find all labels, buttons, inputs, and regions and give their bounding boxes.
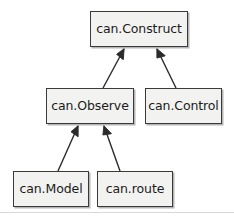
uml-class-diagram: can.Construct can.Observe can.Control ca… <box>0 0 234 220</box>
class-name-can-model: can.Model <box>19 183 82 196</box>
class-box-can-observe[interactable]: can.Observe <box>46 88 134 124</box>
edge-observe-to-construct <box>103 49 124 88</box>
class-name-can-route: can.route <box>106 183 165 196</box>
edge-model-to-observe <box>58 126 78 171</box>
class-name-can-control: can.Control <box>148 100 219 113</box>
class-box-can-route[interactable]: can.route <box>97 171 173 207</box>
edge-control-to-construct <box>157 49 176 88</box>
class-box-can-control[interactable]: can.Control <box>145 88 222 124</box>
bottom-divider <box>0 212 234 213</box>
edge-route-to-observe <box>104 126 120 171</box>
class-name-can-construct: can.Construct <box>96 23 182 36</box>
class-box-can-construct[interactable]: can.Construct <box>90 11 188 47</box>
class-name-can-observe: can.Observe <box>51 100 129 113</box>
class-box-can-model[interactable]: can.Model <box>13 171 89 207</box>
